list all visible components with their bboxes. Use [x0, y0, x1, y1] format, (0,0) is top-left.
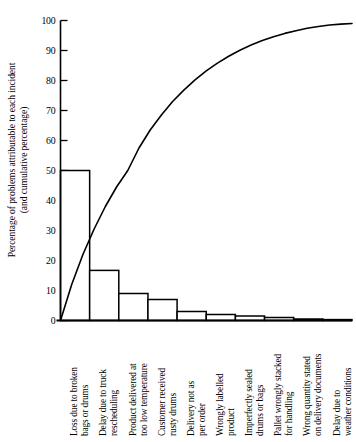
bar-series — [61, 171, 353, 321]
x-axis-category-label-line: drums or bags — [255, 369, 266, 436]
x-axis-category-label-line: per order — [197, 381, 208, 436]
x-axis-category-label-line: rusty drums — [168, 368, 179, 436]
x-axis-category-label-line: Delivery not as — [186, 381, 197, 436]
x-axis-category-label-line: Loss due to broken — [69, 367, 80, 436]
x-axis-category-label-line: product — [226, 373, 237, 436]
bar — [148, 300, 177, 321]
bar — [61, 171, 90, 321]
x-axis-category-label-line: Customer received — [157, 368, 168, 436]
x-axis-category-label-line: too low temperature — [139, 363, 150, 436]
bar — [90, 270, 119, 320]
x-axis-category-label-line: Wrongly labelled — [215, 373, 226, 436]
x-axis-category-label-line: Pallet wrongly stacked — [273, 354, 284, 436]
x-axis-category-label-line: on delivery documents — [313, 354, 324, 436]
x-axis-category-label-line: rescheduling — [109, 369, 120, 436]
x-axis-category-label-line: bags or drums — [80, 367, 91, 436]
bar — [119, 294, 148, 321]
x-axis-category-label-line: Product delivered at — [128, 363, 139, 436]
x-axis-category-label-line: Delay due to truck — [98, 369, 109, 436]
x-axis-category-label-line: Delay due to — [332, 368, 343, 436]
bar — [177, 312, 206, 321]
x-axis-category-label-line: weather conditions — [343, 368, 354, 436]
pareto-chart: Percentage of problems attributable to e… — [0, 0, 356, 442]
x-axis-category-label-line: Wrong quantity stated — [302, 354, 313, 436]
x-axis-category-label-line: for handling — [284, 354, 295, 436]
x-axis-category-label-line: Imperfectly sealed — [244, 369, 255, 436]
